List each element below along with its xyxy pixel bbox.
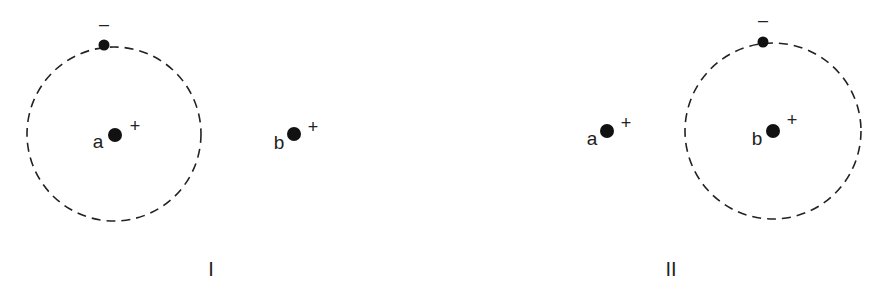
- nucleus-a: a +: [587, 113, 632, 149]
- nucleus-b: b +: [752, 110, 798, 149]
- nucleus-a-dot: [600, 124, 614, 138]
- nucleus-a-charge: +: [621, 113, 632, 133]
- panel-label-II: II: [665, 258, 676, 280]
- panel-label-I: I: [208, 258, 214, 280]
- electron: [758, 37, 769, 48]
- nucleus-a-dot: [108, 128, 122, 142]
- nucleus-a: a +: [93, 116, 141, 152]
- nucleus-b-label: b: [752, 128, 763, 149]
- two-nuclei-electron-orbit-diagram: – a + b + I – a + b + II: [0, 0, 885, 295]
- nucleus-b-dot: [766, 124, 780, 138]
- nucleus-a-label: a: [93, 131, 104, 152]
- nucleus-b-dot: [287, 127, 301, 141]
- electron-charge-label: –: [99, 14, 109, 34]
- panel-I: – a + b + I: [27, 14, 318, 280]
- electron: [99, 40, 110, 51]
- nucleus-a-label: a: [587, 128, 598, 149]
- panel-II: – a + b + II: [587, 10, 861, 280]
- nucleus-b-label: b: [274, 132, 285, 153]
- nucleus-b-charge: +: [787, 110, 798, 130]
- nucleus-b-charge: +: [308, 117, 319, 137]
- nucleus-b: b +: [274, 117, 319, 153]
- nucleus-a-charge: +: [130, 116, 141, 136]
- electron-charge-label: –: [758, 10, 768, 30]
